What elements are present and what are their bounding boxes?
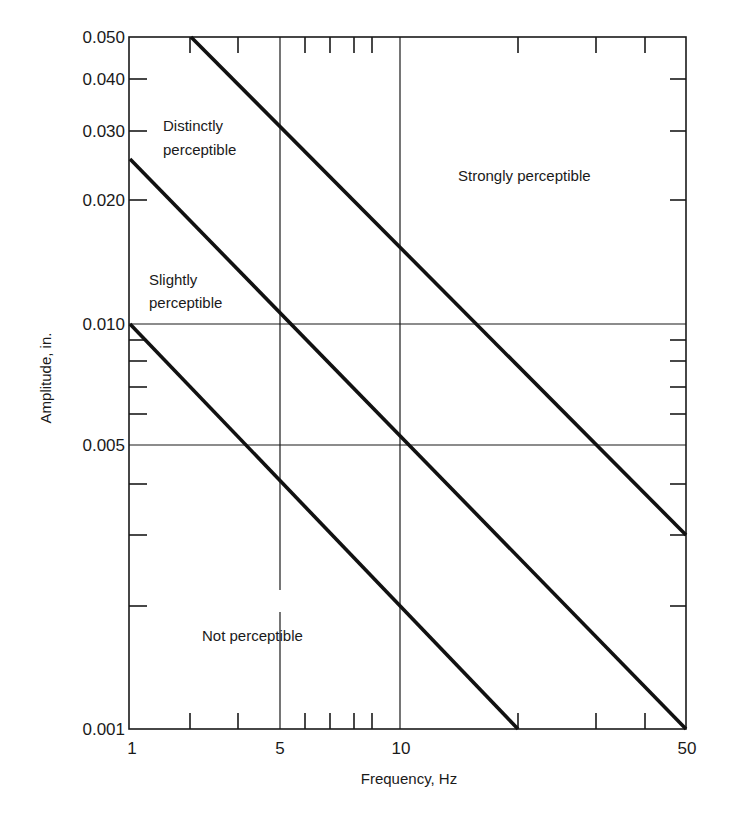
y-tick-label: 0.010 — [82, 315, 125, 334]
y-tick-label: 0.001 — [82, 720, 125, 739]
x-tick-label: 5 — [275, 739, 284, 758]
x-ticks-bottom — [190, 713, 645, 729]
x-tick-label: 10 — [392, 739, 411, 758]
chart-svg: Strongly perceptible Distinctly percepti… — [0, 0, 730, 818]
y-ticks-left — [129, 79, 147, 606]
boundary-distinct-strong — [191, 37, 686, 535]
x-tick-label: 50 — [678, 739, 697, 758]
y-tick-label: 0.005 — [82, 436, 125, 455]
x-axis-title: Frequency, Hz — [361, 770, 457, 787]
y-tick-label: 0.040 — [82, 70, 125, 89]
vibration-perception-chart: Strongly perceptible Distinctly percepti… — [0, 0, 730, 818]
region-label-slightly-line2: perceptible — [149, 294, 222, 311]
y-axis-title: Amplitude, in. — [37, 333, 54, 424]
y-tick-label: 0.020 — [82, 191, 125, 210]
x-ticks-top — [190, 37, 645, 53]
y-tick-labels: 0.050 0.040 0.030 0.020 0.010 0.005 0.00… — [82, 28, 125, 739]
region-label-slightly-line1: Slightly — [149, 271, 198, 288]
x-tick-labels: 1 5 10 50 — [127, 739, 696, 758]
x-tick-label: 1 — [127, 739, 136, 758]
region-label-not: Not perceptible — [202, 627, 303, 644]
region-label-strongly: Strongly perceptible — [458, 167, 591, 184]
y-tick-label: 0.050 — [82, 28, 125, 47]
y-tick-label: 0.030 — [82, 122, 125, 141]
boundary-not-slight — [130, 324, 518, 729]
region-label-distinctly-line2: perceptible — [163, 141, 236, 158]
region-label-distinctly-line1: Distinctly — [163, 117, 224, 134]
